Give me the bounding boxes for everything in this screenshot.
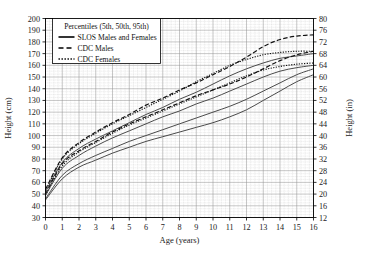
y2-tick-label: 52 bbox=[319, 96, 327, 105]
y2-tick-label: 64 bbox=[319, 61, 327, 70]
x-tick-label: 11 bbox=[226, 223, 234, 232]
y2-tick-label: 20 bbox=[319, 190, 327, 199]
legend-item-label: CDC Females bbox=[78, 55, 121, 64]
x-tick-label: 7 bbox=[161, 223, 165, 232]
y2-tick-label: 40 bbox=[319, 132, 327, 141]
y-tick-label: 200 bbox=[28, 15, 40, 24]
y-tick-label: 100 bbox=[28, 132, 40, 141]
growth-chart: 0123456789101112131415163040506070809010… bbox=[0, 0, 366, 259]
x-tick-label: 6 bbox=[144, 223, 148, 232]
x-tick-label: 2 bbox=[77, 223, 81, 232]
x-tick-label: 13 bbox=[259, 223, 267, 232]
y-tick-label: 70 bbox=[32, 167, 40, 176]
x-tick-label: 1 bbox=[60, 223, 64, 232]
y-tick-label: 160 bbox=[28, 61, 40, 70]
y2-tick-label: 68 bbox=[319, 50, 327, 59]
legend-title: Percentiles (5th, 50th, 95th) bbox=[64, 22, 149, 31]
y-tick-label: 40 bbox=[32, 202, 40, 211]
x-tick-label: 10 bbox=[209, 223, 217, 232]
y-tick-label: 80 bbox=[32, 155, 40, 164]
y2-axis-title: Height (in) bbox=[344, 99, 354, 137]
x-tick-label: 5 bbox=[127, 223, 131, 232]
y2-tick-label: 44 bbox=[319, 120, 327, 129]
y2-tick-label: 24 bbox=[319, 178, 327, 187]
x-tick-label: 14 bbox=[276, 223, 284, 232]
y2-tick-label: 76 bbox=[319, 26, 327, 35]
y-tick-label: 110 bbox=[28, 120, 40, 129]
y2-tick-label: 16 bbox=[319, 202, 327, 211]
y2-tick-label: 60 bbox=[319, 73, 327, 82]
x-tick-label: 3 bbox=[94, 223, 98, 232]
y-tick-label: 90 bbox=[32, 143, 40, 152]
y-tick-label: 180 bbox=[28, 38, 40, 47]
y2-tick-label: 32 bbox=[319, 155, 327, 164]
y-tick-label: 120 bbox=[28, 108, 40, 117]
y-axis-title: Height (cm) bbox=[3, 97, 13, 138]
y-tick-label: 190 bbox=[28, 26, 40, 35]
y-tick-label: 30 bbox=[32, 214, 40, 223]
y-tick-label: 170 bbox=[28, 50, 40, 59]
x-tick-label: 4 bbox=[110, 223, 114, 232]
chart-canvas: 0123456789101112131415163040506070809010… bbox=[0, 0, 366, 259]
x-tick-label: 16 bbox=[309, 223, 317, 232]
y2-tick-label: 56 bbox=[319, 85, 327, 94]
x-tick-label: 15 bbox=[293, 223, 301, 232]
y-tick-label: 130 bbox=[28, 96, 40, 105]
x-tick-label: 8 bbox=[177, 223, 181, 232]
x-tick-label: 9 bbox=[194, 223, 198, 232]
x-tick-label: 12 bbox=[242, 223, 250, 232]
y2-tick-label: 12 bbox=[319, 214, 327, 223]
legend-item-label: CDC Males bbox=[78, 44, 114, 53]
y2-tick-label: 80 bbox=[319, 15, 327, 24]
legend-item-label: SLOS Males and Females bbox=[78, 33, 157, 42]
y-tick-label: 140 bbox=[28, 85, 40, 94]
y-tick-label: 150 bbox=[28, 73, 40, 82]
y-tick-label: 50 bbox=[32, 190, 40, 199]
y2-tick-label: 36 bbox=[319, 143, 327, 152]
x-tick-label: 0 bbox=[43, 223, 47, 232]
y2-tick-label: 48 bbox=[319, 108, 327, 117]
x-axis-title: Age (years) bbox=[160, 235, 200, 245]
y-tick-label: 60 bbox=[32, 178, 40, 187]
y2-tick-label: 28 bbox=[319, 167, 327, 176]
y2-tick-label: 72 bbox=[319, 38, 327, 47]
